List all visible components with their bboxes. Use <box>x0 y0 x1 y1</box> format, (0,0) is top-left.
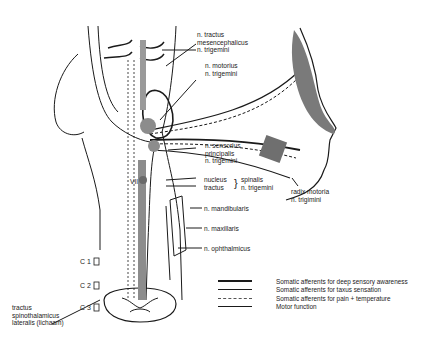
label-line: n. trigimini <box>291 196 329 204</box>
legend-item-pain: Somatic afferents for pain + temperature <box>218 294 408 303</box>
legend-swatch-thin <box>218 306 252 307</box>
label-line: principalis <box>205 150 241 158</box>
label-line: n. motorius <box>205 62 238 70</box>
label-line: spinalis <box>241 176 273 184</box>
label-line: tractus <box>12 304 64 312</box>
legend-swatch-dashed <box>218 298 252 299</box>
brace: } <box>234 176 238 190</box>
label-tractus: tractus <box>204 184 227 192</box>
label-line: n. trigemini <box>205 70 238 78</box>
label-line: n. trigemini <box>241 184 273 192</box>
legend: Somatic afferents for deep sensory aware… <box>218 277 408 311</box>
label-line: n. trigemini <box>205 157 241 165</box>
label-c1: C 1 <box>80 258 91 266</box>
legend-label: Somatic afferents for taxus sensation <box>276 286 381 293</box>
label-line: n. trigemini <box>197 46 248 54</box>
label-c3: C 3 <box>80 304 91 312</box>
label-line: radix motoria <box>291 188 329 196</box>
legend-label: Somatic afferents for pain + temperature <box>276 295 390 302</box>
label-ophthalmicus: n. ophthalmicus <box>204 245 250 253</box>
label-line: mesencephalicus <box>197 39 248 47</box>
label-nucleus: nucleus <box>204 176 227 184</box>
legend-label: Motor function <box>276 303 317 310</box>
label-mandibularis: n. mandibularis <box>204 205 249 213</box>
label-nucleus-tractus: nucleus tractus <box>204 176 227 191</box>
label-line: lateralis (lichaam) <box>12 319 64 327</box>
face-shade <box>292 30 335 134</box>
label-sensorius: n. sensorius principalis n. trigemini <box>205 142 241 165</box>
label-spinalis: spinalis n. trigemini <box>241 176 273 191</box>
label-line: n. sensorius <box>205 142 241 150</box>
label-line: n. tractus <box>197 31 248 39</box>
label-maxillaris: n. maxillaris <box>204 225 239 233</box>
label-radix: radix motoria n. trigimini <box>291 188 329 203</box>
legend-item-motor: Motor function <box>218 303 408 312</box>
label-spinothalamicus: tractus spinothalamicus lateralis (licha… <box>12 304 64 327</box>
legend-item-taxus: Somatic afferents for taxus sensation <box>218 286 408 295</box>
legend-swatch-medium <box>218 289 252 290</box>
legend-label: Somatic afferents for deep sensory aware… <box>276 278 408 285</box>
legend-swatch-thick <box>218 280 252 282</box>
label-mesencephalicus: n. tractus mesencephalicus n. trigemini <box>197 31 248 54</box>
label-motorius: n. motorius n. trigemini <box>205 62 238 77</box>
legend-item-deep: Somatic afferents for deep sensory aware… <box>218 277 408 286</box>
label-vii: VII <box>130 178 138 186</box>
label-c2: C 2 <box>80 282 91 290</box>
label-line: spinothalamicus <box>12 312 64 320</box>
